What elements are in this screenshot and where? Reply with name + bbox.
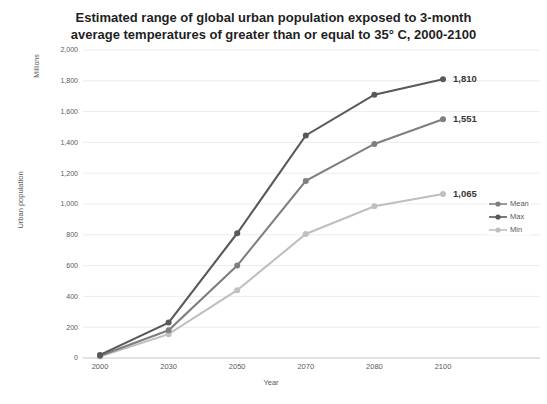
y-tick-label: 800 [66, 231, 78, 238]
series-marker-max [234, 230, 240, 236]
legend-item-mean: Mean [489, 199, 529, 208]
y-tick-label: 1,400 [60, 139, 78, 146]
series-marker-min [371, 203, 377, 209]
legend-label: Min [510, 225, 522, 234]
series-marker-max [166, 320, 172, 326]
series-marker-max [97, 352, 103, 358]
series-marker-min [234, 287, 240, 293]
y-tick-label: 600 [66, 262, 78, 269]
legend-item-min: Min [489, 225, 529, 234]
legend-marker-icon [489, 200, 507, 208]
x-tick-label: 2080 [366, 362, 383, 371]
data-label-min: 1,065 [453, 188, 477, 199]
series-line-mean [100, 119, 443, 356]
data-label-max: 1,810 [453, 73, 477, 84]
series-line-max [100, 79, 443, 355]
chart-canvas: 02004006008001,0001,2001,4001,6001,8002,… [0, 0, 547, 404]
series-marker-min [303, 231, 309, 237]
series-marker-mean [234, 263, 240, 269]
y-tick-label: 2,000 [60, 46, 78, 53]
x-tick-label: 2050 [229, 362, 246, 371]
series-line-min [100, 194, 443, 356]
series-marker-max [371, 92, 377, 98]
series-marker-mean [166, 327, 172, 333]
x-tick-label: 2100 [435, 362, 452, 371]
series-marker-mean [303, 178, 309, 184]
line-chart-figure: Estimated range of global urban populati… [0, 0, 547, 404]
series-marker-max [303, 132, 309, 138]
x-tick-label: 2070 [297, 362, 314, 371]
legend-marker-icon [489, 226, 507, 234]
series-marker-min [440, 191, 446, 197]
y-tick-label: 1,600 [60, 108, 78, 115]
legend-label: Max [510, 212, 524, 221]
y-tick-label: 400 [66, 293, 78, 300]
y-tick-label: 1,000 [60, 200, 78, 207]
legend-marker-icon [489, 213, 507, 221]
x-tick-label: 2000 [92, 362, 109, 371]
y-tick-label: 1,800 [60, 77, 78, 84]
data-label-mean: 1,551 [453, 113, 477, 124]
series-marker-max [440, 76, 446, 82]
legend-item-max: Max [489, 212, 529, 221]
legend-label: Mean [510, 199, 529, 208]
x-axis-title: Year [263, 378, 278, 387]
chart-legend: MeanMaxMin [487, 198, 531, 235]
series-marker-mean [371, 141, 377, 147]
y-tick-label: 200 [66, 324, 78, 331]
y-tick-label: 1,200 [60, 170, 78, 177]
x-tick-label: 2030 [160, 362, 177, 371]
series-marker-mean [440, 116, 446, 122]
y-tick-label: 0 [74, 354, 78, 361]
